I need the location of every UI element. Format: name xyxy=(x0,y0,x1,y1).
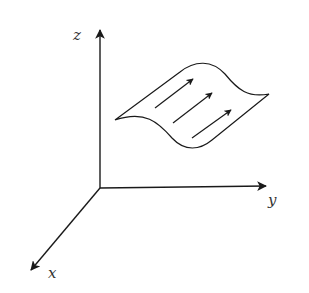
vector-field-diagram: z y x xyxy=(0,0,309,293)
vector-arrow xyxy=(173,93,212,123)
x-axis-label: x xyxy=(48,264,57,282)
x-axis xyxy=(31,188,100,270)
z-axis-label: z xyxy=(72,26,81,44)
vector-arrow xyxy=(155,79,193,108)
vector-arrow xyxy=(192,110,231,138)
surface-patch xyxy=(115,63,269,148)
y-axis-label: y xyxy=(267,191,277,209)
surface-vectors xyxy=(155,79,231,138)
y-axis xyxy=(100,186,266,188)
coordinate-axes xyxy=(31,30,266,270)
